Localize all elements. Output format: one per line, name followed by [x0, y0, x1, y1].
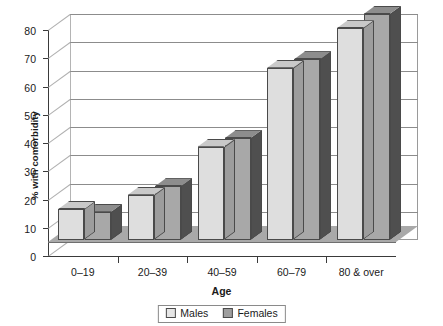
legend-label-males: Males — [180, 308, 208, 319]
x-axis-title: Age — [0, 285, 443, 297]
bar-front-face — [337, 28, 363, 240]
bar-males-4 — [267, 68, 293, 240]
legend-swatch-males-icon — [165, 308, 175, 318]
x-axis-tick — [326, 257, 327, 263]
y-axis-tick-label: 10 — [24, 224, 36, 235]
bar-males-2 — [128, 195, 154, 240]
legend-item-males: Males — [165, 308, 208, 319]
x-axis-category-label: 40–59 — [207, 266, 236, 278]
plot-area: 01020304050607080 — [48, 14, 418, 256]
x-axis-tick — [187, 257, 188, 263]
y-axis-tick-label: 60 — [24, 82, 36, 93]
x-axis-line — [48, 256, 396, 257]
bar-chart: % with comorbidity 01020304050607080 0–1… — [0, 0, 443, 326]
legend-item-females: Females — [222, 308, 277, 319]
depth-connector — [48, 99, 71, 116]
bar-side-face — [154, 187, 165, 240]
depth-connector — [48, 155, 71, 172]
bar-side-face — [390, 6, 401, 240]
legend-label-females: Females — [237, 308, 277, 319]
floor-front-edge — [48, 242, 396, 243]
bar-males-5 — [337, 28, 363, 240]
bar-front-face — [128, 195, 154, 240]
depth-connector — [48, 42, 71, 59]
bar-front-face — [58, 209, 84, 240]
x-axis-tick — [257, 257, 258, 263]
y-axis-tick: 30 — [43, 171, 48, 172]
bar-side-face — [293, 60, 304, 240]
x-axis-category-label: 60–79 — [277, 266, 306, 278]
y-axis-tick-label: 30 — [24, 167, 36, 178]
legend-swatch-females-icon — [222, 308, 232, 318]
x-axis-category-label: 80 & over — [339, 266, 384, 278]
x-axis-tick — [118, 257, 119, 263]
legend: Males Females — [157, 305, 285, 323]
y-axis-tick-label: 80 — [24, 26, 36, 37]
bar-front-face — [267, 68, 293, 240]
depth-connector — [48, 14, 71, 31]
bar-side-face — [224, 139, 235, 240]
y-axis-tick-label: 20 — [24, 195, 36, 206]
bar-side-face — [320, 51, 331, 240]
depth-connector — [48, 184, 71, 201]
bar-males-1 — [58, 209, 84, 240]
y-axis-tick-label: 40 — [24, 139, 36, 150]
bar-side-face — [181, 178, 192, 240]
y-axis-tick: 70 — [43, 58, 48, 59]
depth-connector — [48, 127, 71, 144]
depth-connector — [48, 71, 71, 88]
bar-side-face — [251, 130, 262, 240]
x-axis-category-label: 0–19 — [71, 266, 94, 278]
y-axis-tick-label: 0 — [30, 252, 36, 263]
y-axis-title: % with comorbidity — [29, 76, 40, 236]
bar-males-3 — [198, 147, 224, 240]
bar-side-face — [363, 20, 374, 240]
y-axis-tick-label: 70 — [24, 54, 36, 65]
y-axis-tick-label: 50 — [24, 111, 36, 122]
bar-front-face — [198, 147, 224, 240]
x-axis-category-label: 20–39 — [138, 266, 167, 278]
